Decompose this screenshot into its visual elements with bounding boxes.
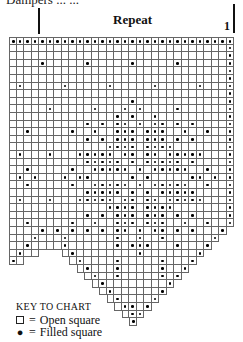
chart-cell: [219, 136, 227, 144]
chart-cell: [107, 90, 115, 98]
chart-cell: [114, 273, 122, 281]
chart-cell: [189, 143, 197, 151]
chart-cell: [17, 227, 25, 235]
chart-cell: [69, 143, 77, 151]
chart-cell: [212, 204, 220, 212]
chart-cell: [114, 37, 122, 45]
chart-cell: [137, 151, 145, 159]
chart-cell: [212, 143, 220, 151]
filled-dot-icon: [26, 184, 29, 187]
chart-cell: [174, 197, 182, 205]
chart-cell: [77, 204, 85, 212]
filled-dot-icon: [161, 184, 164, 187]
filled-dot-icon: [139, 168, 142, 171]
chart-cell: [122, 159, 130, 167]
chart-cell: [204, 121, 212, 129]
chart-cell: [9, 60, 17, 68]
chart-cell: [219, 67, 227, 75]
chart-cell: [77, 143, 85, 151]
filled-dot-icon: [86, 229, 89, 232]
filled-dot-icon: [146, 138, 149, 141]
chart-cell: [77, 90, 85, 98]
filled-dot-icon: [86, 161, 89, 164]
chart-cell: [189, 189, 197, 197]
chart-cell: [62, 159, 70, 167]
chart-cell: [189, 151, 197, 159]
chart-cell: [204, 75, 212, 83]
filled-dot-icon: [161, 206, 164, 209]
chart-cell: [152, 197, 160, 205]
chart-cell: [99, 67, 107, 75]
filled-dot-icon: [146, 305, 149, 308]
chart-cell: [84, 250, 92, 258]
filled-dot-icon: [109, 40, 112, 43]
chart-cell: [69, 67, 77, 75]
chart-cell: [227, 83, 235, 91]
chart-cell: [137, 105, 145, 113]
chart-cell: [174, 181, 182, 189]
chart-cell: [129, 227, 137, 235]
chart-cell: [39, 52, 47, 60]
chart-cell: [174, 45, 182, 53]
chart-cell: [39, 121, 47, 129]
chart-cell: [167, 174, 175, 182]
filled-dot-icon: [146, 199, 149, 202]
chart-cell: [39, 98, 47, 106]
chart-cell: [167, 204, 175, 212]
chart-cell: [182, 219, 190, 227]
chart-cell: [84, 90, 92, 98]
chart-cell: [54, 60, 62, 68]
filled-dot-icon: [116, 130, 119, 133]
chart-cell: [99, 83, 107, 91]
chart-cell: [137, 174, 145, 182]
chart-cell: [114, 280, 122, 288]
chart-cell: [24, 189, 32, 197]
chart-cell: [167, 113, 175, 121]
chart-cell: [122, 189, 130, 197]
chart-cell: [219, 90, 227, 98]
filled-dot-icon: [131, 115, 134, 118]
chart-cell: [204, 219, 212, 227]
chart-cell: [144, 128, 152, 136]
filled-dot-icon: [154, 85, 157, 88]
chart-cell: [17, 60, 25, 68]
chart-cell: [17, 212, 25, 220]
chart-cell: [107, 273, 115, 281]
filled-dot-icon: [161, 260, 164, 263]
chart-cell: [114, 105, 122, 113]
filled-dot-icon: [86, 138, 89, 141]
chart-cell: [17, 257, 25, 265]
chart-cell: [152, 181, 160, 189]
chart-cell: [129, 318, 137, 326]
chart-cell: [212, 197, 220, 205]
chart-cell: [9, 197, 17, 205]
chart-cell: [152, 295, 160, 303]
chart-cell: [189, 52, 197, 60]
chart-cell: [47, 159, 55, 167]
filled-dot-icon: [41, 229, 44, 232]
chart-cell: [9, 235, 17, 243]
chart-cell: [137, 235, 145, 243]
chart-cell: [107, 295, 115, 303]
chart-cell: [24, 143, 32, 151]
chart-cell: [69, 75, 77, 83]
chart-cell: [62, 113, 70, 121]
chart-cell: [47, 204, 55, 212]
chart-cell: [159, 219, 167, 227]
filled-dot-icon: [56, 40, 59, 43]
chart-cell: [9, 113, 17, 121]
open-square-icon: [16, 316, 24, 324]
chart-cell: [167, 181, 175, 189]
chart-cell: [107, 128, 115, 136]
chart-cell: [69, 105, 77, 113]
filled-dot-icon: [101, 168, 104, 171]
chart-cell: [152, 219, 160, 227]
chart-cell: [159, 37, 167, 45]
filled-dot-icon: [176, 153, 179, 156]
chart-cell: [77, 265, 85, 273]
chart-cell: [159, 181, 167, 189]
chart-cell: [99, 60, 107, 68]
chart-cell: [77, 136, 85, 144]
chart-cell: [219, 128, 227, 136]
chart-cell: [114, 250, 122, 258]
